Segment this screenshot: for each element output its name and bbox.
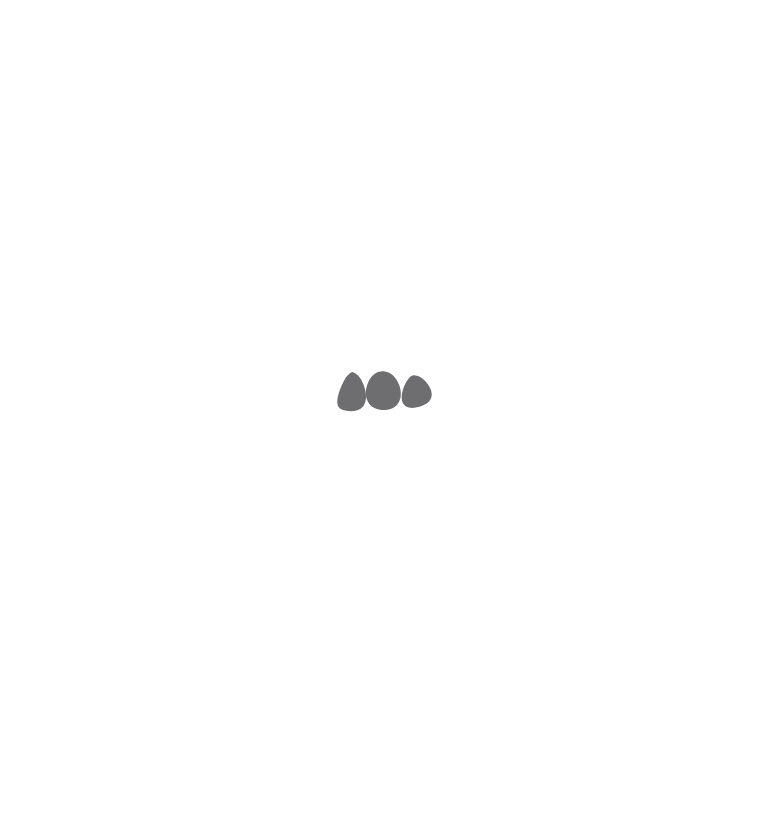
- canvas-background: [0, 0, 778, 820]
- pebble-cluster: [337, 371, 431, 411]
- image-canvas: Three Gray Pebble Shapes Left pebble Mid…: [0, 0, 778, 820]
- pebble-cluster-group: [0, 0, 778, 820]
